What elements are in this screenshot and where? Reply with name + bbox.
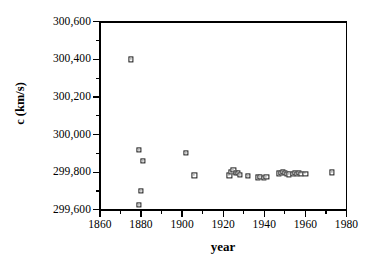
y-tick-label: 299,600 — [53, 204, 91, 216]
y-tick-minor — [96, 115, 100, 116]
y-tick-label: 300,600 — [53, 16, 91, 28]
data-point — [245, 173, 250, 178]
data-point — [136, 202, 141, 207]
y-tick-minor — [96, 190, 100, 191]
x-tick-minor — [243, 210, 244, 214]
x-tick-label: 1900 — [170, 219, 193, 231]
x-tick-minor — [120, 210, 121, 214]
x-tick-label: 1960 — [294, 219, 317, 231]
x-tick-label: 1880 — [129, 219, 152, 231]
x-axis-title: year — [99, 239, 347, 255]
y-axis-title: c (km/s) — [13, 54, 28, 154]
x-tick-minor — [284, 210, 285, 214]
y-tick-minor — [96, 40, 100, 41]
data-point — [140, 158, 145, 163]
x-tick-label: 1920 — [211, 219, 234, 231]
data-point — [184, 151, 189, 156]
x-tick-minor — [161, 210, 162, 214]
x-tick-label: 1860 — [88, 219, 111, 231]
plot-frame-right — [346, 21, 347, 211]
y-tick-label: 300,400 — [53, 53, 91, 65]
y-tick-minor — [96, 153, 100, 154]
y-tick-major — [93, 59, 100, 60]
speed-of-light-scatter-chart: 299,600299,800300,000300,200300,400300,6… — [0, 0, 372, 269]
x-tick-major — [140, 210, 141, 217]
x-tick-minor — [202, 210, 203, 214]
x-tick-major — [223, 210, 224, 217]
data-point — [330, 170, 335, 175]
x-tick-minor — [325, 210, 326, 214]
x-tick-major — [181, 210, 182, 217]
data-point — [138, 188, 143, 193]
y-tick-major — [93, 172, 100, 173]
y-tick-major — [93, 134, 100, 135]
plot-frame-top — [99, 21, 347, 23]
x-tick-major — [305, 210, 306, 217]
x-tick-label: 1980 — [335, 219, 358, 231]
data-point — [128, 57, 133, 62]
y-axis-title-text: c (km/s) — [13, 82, 27, 125]
plot-area — [99, 21, 347, 210]
y-tick-label: 300,200 — [53, 91, 91, 103]
y-tick-major — [93, 96, 100, 97]
y-tick-label: 299,800 — [53, 166, 91, 178]
x-tick-major — [346, 210, 347, 217]
y-tick-minor — [96, 78, 100, 79]
data-point — [264, 174, 269, 179]
data-point — [237, 172, 242, 177]
y-tick-label: 300,000 — [53, 129, 91, 141]
data-point — [136, 147, 141, 152]
y-tick-major — [93, 21, 100, 22]
data-point — [303, 171, 308, 176]
x-tick-major — [99, 210, 100, 217]
data-point — [192, 173, 197, 178]
x-tick-label: 1940 — [253, 219, 276, 231]
x-tick-major — [264, 210, 265, 217]
